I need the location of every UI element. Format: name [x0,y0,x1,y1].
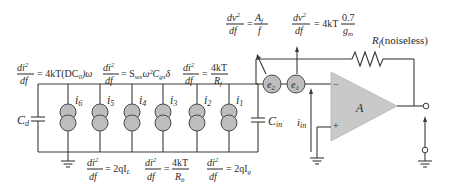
svg-text:4kT: 4kT [172,157,188,168]
op-amp-triangle [331,72,397,141]
svg-text:= 4kT(DC0)ω: = 4kT(DC0)ω [37,68,92,81]
current-source-i3 [155,84,171,152]
svg-text:df: df [147,171,156,182]
svg-text:i2: i2 [204,93,211,108]
svg-text:df: df [105,75,114,86]
current-source-i4 [124,84,140,152]
equation-e2: dv2 df = Af f [226,11,268,36]
svg-text:df: df [209,171,218,182]
current-source-i2 [189,84,205,152]
source-labels: i6 i5 i4 i3 i2 i1 Cd Cin [17,93,282,129]
circuit-diagram: i6 i5 i4 i3 i2 i1 Cd Cin e2 e1 Rf(noisel… [0,0,449,188]
current-sources [60,84,237,152]
current-source-i1 [221,84,237,152]
svg-text:=: = [202,68,208,79]
svg-text:−: − [333,79,339,90]
svg-text:= Swxω²Cgsδ: = Swxω²Cgsδ [121,68,170,81]
svg-text:di2: di2 [103,61,115,73]
op-amp: A − + iin [297,72,432,167]
ground-icon [310,158,324,164]
svg-text:=: = [164,163,170,174]
svg-text:f: f [258,25,262,36]
rf-label: Rf(noiseless) [371,34,428,48]
svg-text:df: df [20,75,29,86]
svg-text:df: df [89,171,98,182]
svg-text:di2: di2 [145,156,157,168]
rf-resistor [352,52,383,66]
svg-text:di2: di2 [183,61,195,73]
svg-text:dv2: dv2 [227,11,240,23]
svg-text:di2: di2 [87,156,99,168]
svg-text:= 2qIg: = 2qIg [226,163,251,176]
svg-text:Rf: Rf [213,75,223,88]
svg-text:df: df [295,25,304,36]
cd-label: Cd [17,113,30,128]
svg-text:df: df [229,25,238,36]
svg-text:= 2qIL: = 2qIL [105,163,130,176]
ground-icon [61,161,75,167]
svg-text:Af: Af [254,12,264,25]
svg-text:i6: i6 [75,93,82,108]
equation-i5: di2 df = 2qIL [87,156,130,182]
current-source-i5 [92,84,108,152]
equation-i6: di2 df = 4kT(DC0)ω [17,61,92,86]
svg-text:0.7: 0.7 [342,12,355,23]
cin-label: Cin [268,114,282,129]
svg-text:i3: i3 [170,93,177,108]
ground-icon [418,161,432,167]
equation-i1: di2 df = 2qIg [207,156,251,182]
svg-text:gm: gm [343,25,353,38]
svg-text:i4: i4 [139,93,146,108]
equation-i3: di2 df = 4kT Rb [145,156,189,184]
current-source-i6 [60,84,76,152]
iin-label: iin [297,116,306,130]
equation-i4: di2 df = Swxω²Cgsδ [103,61,170,86]
svg-text:di2: di2 [207,156,219,168]
svg-text:dv2: dv2 [293,11,306,23]
svg-text:= 4kT: = 4kT [314,18,338,29]
svg-text:+: + [333,120,339,131]
svg-text:4kT: 4kT [211,62,227,73]
output-terminal [423,103,429,109]
svg-text:df: df [185,75,194,86]
svg-text:i1: i1 [236,93,243,108]
amp-gain-label: A [355,101,364,115]
svg-text:=: = [247,18,253,29]
svg-text:di2: di2 [17,61,29,73]
equation-e1: dv2 df = 4kT 0.7 gm [292,11,355,38]
svg-text:Rb: Rb [174,171,185,184]
svg-text:i5: i5 [107,93,114,108]
